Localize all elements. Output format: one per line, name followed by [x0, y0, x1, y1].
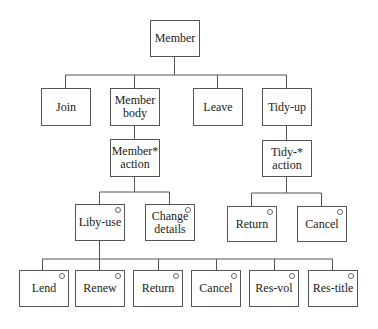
selection-circle-icon — [115, 273, 121, 279]
selection-circle-icon — [185, 207, 191, 213]
node-label: Lend — [32, 282, 57, 295]
node-liby-use: Liby-use — [75, 204, 125, 241]
selection-circle-icon — [289, 273, 295, 279]
node-return: Return — [133, 270, 183, 307]
node-label: Member — [155, 32, 196, 45]
node-label: Join — [56, 101, 76, 114]
node-tidy-return: Return — [227, 206, 277, 242]
node-cancel: Cancel — [191, 270, 241, 307]
node-member-action: Member* action — [110, 139, 160, 177]
node-label: Leave — [203, 101, 232, 114]
node-renew: Renew — [75, 270, 125, 307]
selection-circle-icon — [231, 273, 237, 279]
node-member: Member — [150, 20, 200, 57]
node-res-vol: Res-vol — [249, 270, 299, 307]
node-label: Renew — [83, 282, 116, 295]
node-label: Cancel — [199, 282, 232, 295]
selection-circle-icon — [337, 209, 343, 215]
node-label: Res-title — [313, 282, 354, 295]
node-tidy-cancel: Cancel — [297, 206, 347, 242]
node-lend: Lend — [19, 270, 69, 307]
node-label: Return — [142, 282, 175, 295]
node-label: Change details — [152, 210, 189, 236]
entity-structure-diagram: Member Join Member body Leave Tidy-up Me… — [0, 0, 378, 329]
node-tidy-action: Tidy-* action — [262, 140, 312, 177]
node-change-details: Change details — [145, 204, 195, 241]
node-res-title: Res-title — [308, 270, 358, 307]
selection-circle-icon — [115, 207, 121, 213]
node-label: Cancel — [305, 218, 338, 231]
node-label: Tidy-up — [268, 101, 306, 114]
node-label: Liby-use — [79, 216, 122, 229]
node-label: Res-vol — [255, 282, 292, 295]
node-tidy-up: Tidy-up — [262, 88, 312, 126]
node-member-body: Member body — [110, 88, 160, 126]
node-leave: Leave — [193, 88, 243, 126]
node-label: Member body — [115, 94, 156, 120]
node-label: Return — [236, 218, 269, 231]
selection-circle-icon — [173, 273, 179, 279]
node-label: Member* action — [112, 145, 159, 171]
selection-circle-icon — [59, 273, 65, 279]
node-join: Join — [41, 88, 91, 126]
selection-circle-icon — [267, 209, 273, 215]
selection-circle-icon — [348, 273, 354, 279]
node-label: Tidy-* action — [271, 146, 303, 172]
